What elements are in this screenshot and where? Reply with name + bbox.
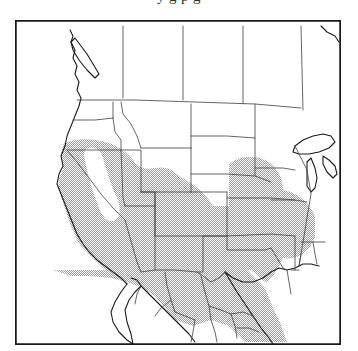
range-map-figure xyxy=(15,20,341,345)
caption-remnant-glyphs: y g p g xyxy=(157,0,201,5)
caption-text-remnant: y g p g xyxy=(0,0,358,13)
figure-root: y g p g xyxy=(0,0,358,351)
map-canvas xyxy=(15,20,341,345)
